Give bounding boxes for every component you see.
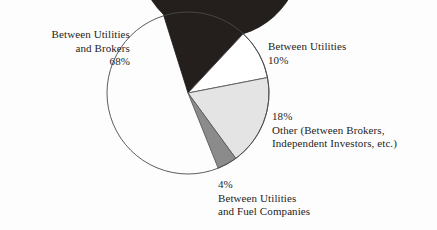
slice-label-percent: 10% bbox=[268, 54, 346, 68]
slice-label-line: Other (Between Brokers, bbox=[272, 124, 397, 138]
slice-label-between-utilities: Between Utilities 10% bbox=[268, 40, 346, 67]
slice-label-percent: 4% bbox=[218, 178, 310, 192]
slice-label-line: Between Utilities bbox=[218, 192, 310, 206]
slice-label-percent: 68% bbox=[8, 55, 130, 69]
slice-label-other: 18% Other (Between Brokers, Independent … bbox=[272, 110, 397, 151]
slice-label-line: and Brokers bbox=[8, 42, 130, 56]
slice-label-line: Independent Investors, etc.) bbox=[272, 137, 397, 151]
slice-label-percent: 18% bbox=[272, 110, 397, 124]
slice-label-line: and Fuel Companies bbox=[218, 205, 310, 219]
slice-label-line: Between Utilities bbox=[8, 28, 130, 42]
pie-chart-figure: Between Utilities and Brokers 68% Betwee… bbox=[0, 0, 437, 230]
slice-label-line: Between Utilities bbox=[268, 40, 346, 54]
slice-label-utilities-and-brokers: Between Utilities and Brokers 68% bbox=[8, 28, 130, 69]
slice-label-fuel-companies: 4% Between Utilities and Fuel Companies bbox=[218, 178, 310, 219]
